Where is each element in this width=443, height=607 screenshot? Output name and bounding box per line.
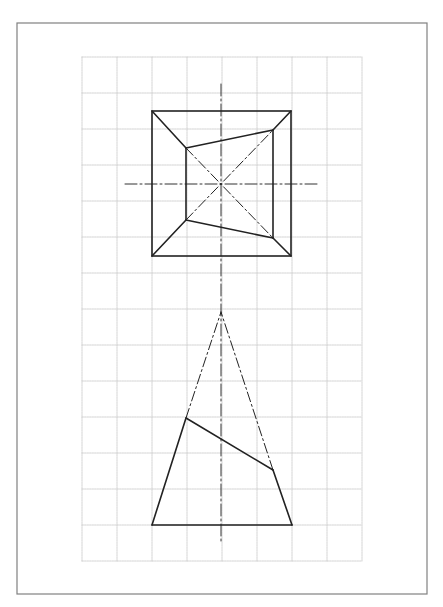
top-view-edge bbox=[186, 130, 273, 148]
front-view-edge bbox=[152, 418, 186, 525]
front-view-hidden-edge bbox=[221, 312, 273, 470]
grid bbox=[82, 57, 362, 561]
front-view-hidden-edge bbox=[186, 312, 221, 418]
drawing-canvas bbox=[0, 0, 443, 607]
top-view-edge bbox=[273, 111, 291, 130]
top-view-hidden-edge bbox=[186, 148, 273, 238]
top-view-edge bbox=[152, 111, 186, 148]
top-view-edge bbox=[152, 220, 186, 256]
top-view-hidden-edge bbox=[186, 130, 273, 220]
front-view-edge bbox=[186, 418, 273, 470]
top-view-edge bbox=[273, 238, 291, 256]
technical-drawing bbox=[0, 0, 443, 607]
top-view-edge bbox=[186, 220, 273, 238]
front-view-edge bbox=[273, 470, 292, 525]
